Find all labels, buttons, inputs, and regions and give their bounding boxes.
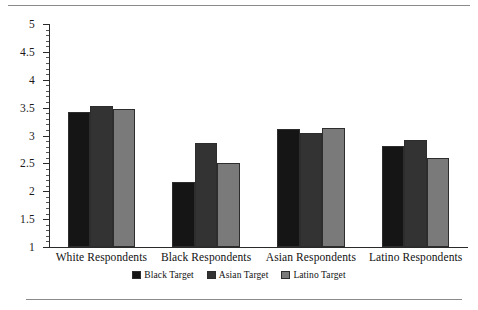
y-tick-label: 2 bbox=[29, 185, 35, 197]
bar-group: White Respondents bbox=[49, 24, 154, 247]
legend-swatch-icon bbox=[207, 271, 216, 279]
y-tick-label: 5 bbox=[29, 18, 35, 30]
y-tick-major: 1 bbox=[43, 247, 49, 248]
legend-label: Asian Target bbox=[219, 270, 269, 280]
bar bbox=[68, 112, 91, 247]
bar bbox=[300, 133, 323, 247]
bottom-rule bbox=[26, 299, 462, 300]
bar bbox=[90, 106, 113, 247]
x-axis-category-label: Black Respondents bbox=[154, 251, 259, 263]
bar bbox=[172, 182, 195, 247]
bar bbox=[277, 129, 300, 247]
legend-swatch-icon bbox=[132, 271, 141, 279]
bar bbox=[195, 143, 218, 247]
bar-group: Black Respondents bbox=[154, 24, 259, 247]
y-tick-label: 4 bbox=[29, 74, 35, 86]
top-rule bbox=[8, 5, 470, 6]
legend-label: Black Target bbox=[144, 270, 194, 280]
legend-item: Asian Target bbox=[207, 270, 269, 280]
y-tick-label: 3 bbox=[29, 129, 35, 141]
bar bbox=[217, 163, 240, 247]
y-tick-label: 3.5 bbox=[20, 101, 35, 113]
bar bbox=[382, 146, 405, 247]
legend-label: Latino Target bbox=[293, 270, 345, 280]
bar bbox=[427, 158, 450, 247]
chart-legend: Black TargetAsian TargetLatino Target bbox=[0, 270, 478, 280]
legend-swatch-icon bbox=[281, 271, 290, 279]
bar bbox=[113, 109, 136, 247]
bar-group: Latino Respondents bbox=[363, 24, 468, 247]
figure-container: 11.522.533.544.55 White RespondentsBlack… bbox=[0, 0, 478, 310]
y-tick-label: 1.5 bbox=[20, 213, 35, 225]
x-axis-category-label: Asian Respondents bbox=[259, 251, 364, 263]
x-axis-category-label: White Respondents bbox=[49, 251, 154, 263]
y-tick-label: 2.5 bbox=[20, 157, 35, 169]
x-axis-category-label: Latino Respondents bbox=[363, 251, 468, 263]
y-tick-label: 4.5 bbox=[20, 46, 35, 58]
plot-area: 11.522.533.544.55 White RespondentsBlack… bbox=[49, 24, 468, 248]
bar bbox=[404, 140, 427, 247]
legend-item: Black Target bbox=[132, 270, 194, 280]
legend-item: Latino Target bbox=[281, 270, 345, 280]
bar bbox=[322, 128, 345, 247]
bar-group: Asian Respondents bbox=[259, 24, 364, 247]
bar-groups: White RespondentsBlack RespondentsAsian … bbox=[49, 24, 468, 247]
y-tick-label: 1 bbox=[29, 241, 35, 253]
x-axis-line bbox=[49, 247, 468, 248]
